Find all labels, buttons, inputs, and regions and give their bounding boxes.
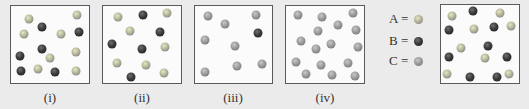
sphere-b-icon xyxy=(490,23,499,32)
sphere-c-icon xyxy=(201,68,210,77)
sphere-a-icon xyxy=(142,61,151,70)
sphere-b-icon xyxy=(139,11,148,20)
legend-label-b: B = xyxy=(389,33,408,49)
sphere-b-icon xyxy=(445,53,454,62)
sphere-a-icon xyxy=(72,67,81,76)
sphere-b-icon xyxy=(108,40,117,49)
sphere-a-icon xyxy=(443,70,452,79)
sphere-a-icon xyxy=(470,25,479,34)
sphere-b-icon xyxy=(17,67,26,76)
box-label-iii: (iii) xyxy=(223,90,243,106)
sphere-a-icon xyxy=(34,65,43,74)
sphere-c-icon xyxy=(349,9,358,18)
sphere-a-icon xyxy=(448,12,457,21)
sphere-c-icon xyxy=(314,27,323,36)
legend-row-b: B = xyxy=(389,33,423,49)
sphere-a-icon xyxy=(113,59,122,68)
sphere-a-icon xyxy=(496,9,505,18)
sphere-a-icon xyxy=(20,30,29,39)
sphere-b-icon xyxy=(38,45,47,54)
sphere-c-icon xyxy=(334,21,343,30)
sphere-b-icon xyxy=(414,37,423,46)
sphere-a-icon xyxy=(507,22,516,31)
sphere-a-icon xyxy=(457,44,466,53)
sphere-c-icon xyxy=(414,57,423,66)
legend-label-a: A = xyxy=(389,11,408,27)
sphere-b-icon xyxy=(127,73,136,82)
sphere-c-icon xyxy=(221,20,230,29)
sphere-a-icon xyxy=(163,9,172,18)
sphere-c-icon xyxy=(297,37,306,46)
legend-row-c: C = xyxy=(389,53,423,69)
sphere-b-icon xyxy=(469,7,478,16)
sphere-a-icon xyxy=(72,48,81,57)
sphere-c-icon xyxy=(302,70,311,79)
sphere-b-icon xyxy=(484,42,493,51)
sphere-c-icon xyxy=(252,11,261,20)
sphere-c-icon xyxy=(204,12,213,21)
sphere-b-icon xyxy=(75,28,84,37)
sphere-c-icon xyxy=(354,43,363,52)
sphere-a-icon xyxy=(505,70,514,79)
legend-row-a: A = xyxy=(389,11,423,27)
sphere-a-icon xyxy=(46,54,55,63)
sphere-a-icon xyxy=(160,69,169,78)
box-label-i: (i) xyxy=(44,90,56,106)
sphere-c-icon xyxy=(294,11,303,20)
sphere-c-icon xyxy=(328,71,337,80)
sphere-a-icon xyxy=(114,13,123,22)
sphere-c-icon xyxy=(352,26,361,35)
sphere-c-icon xyxy=(318,13,327,22)
sphere-b-icon xyxy=(254,29,263,38)
sphere-a-icon xyxy=(414,15,423,24)
sphere-c-icon xyxy=(344,59,353,68)
sphere-b-icon xyxy=(38,23,47,32)
sphere-c-icon xyxy=(312,45,321,54)
box-label-iv: (iv) xyxy=(316,90,335,106)
box-label-ii: (ii) xyxy=(134,90,150,106)
sphere-b-icon xyxy=(138,45,147,54)
sphere-c-icon xyxy=(233,62,242,71)
sphere-b-icon xyxy=(466,73,475,82)
sphere-a-icon xyxy=(73,11,82,20)
sphere-a-icon xyxy=(481,54,490,63)
sphere-b-icon xyxy=(16,52,25,61)
sphere-a-icon xyxy=(25,15,34,24)
sphere-c-icon xyxy=(351,72,360,81)
sphere-c-icon xyxy=(258,60,267,69)
legend-label-c: C = xyxy=(389,53,408,69)
sphere-b-icon xyxy=(445,26,454,35)
sphere-c-icon xyxy=(317,61,326,70)
sphere-a-icon xyxy=(57,30,66,39)
sphere-a-icon xyxy=(161,43,170,52)
sphere-b-icon xyxy=(51,68,60,77)
sphere-c-icon xyxy=(327,40,336,49)
sphere-c-icon xyxy=(201,36,210,45)
sphere-c-icon xyxy=(292,58,301,67)
sphere-b-icon xyxy=(503,53,512,62)
sphere-a-icon xyxy=(126,27,135,36)
sphere-c-icon xyxy=(231,42,240,51)
sphere-b-icon xyxy=(156,28,165,37)
sphere-b-icon xyxy=(493,73,502,82)
